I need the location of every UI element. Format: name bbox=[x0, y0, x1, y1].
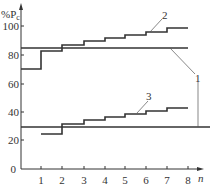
ytick-0: 0 bbox=[11, 163, 17, 175]
callout-2: 2 bbox=[162, 9, 168, 21]
ytick-20: 20 bbox=[8, 134, 20, 146]
ytick-80: 80 bbox=[8, 49, 20, 61]
xtick-7: 7 bbox=[164, 174, 170, 186]
xtick-4: 4 bbox=[102, 174, 108, 186]
callout-1-leader-a bbox=[170, 48, 195, 74]
x-axis-label: n bbox=[198, 172, 204, 184]
series-3-step bbox=[41, 108, 188, 134]
xtick-2: 2 bbox=[59, 174, 65, 186]
step-chart: 100 80 60 40 20 0 1 2 3 4 5 6 7 8 %Pc n … bbox=[0, 0, 217, 190]
y-axis-label: %Pc bbox=[1, 8, 20, 22]
ytick-40: 40 bbox=[8, 106, 20, 118]
callout-2-leader bbox=[150, 19, 162, 32]
callout-1: 1 bbox=[195, 72, 201, 84]
ytick-60: 60 bbox=[8, 78, 20, 90]
xtick-1: 1 bbox=[38, 174, 44, 186]
x-axis-arrow-icon bbox=[197, 167, 204, 171]
xtick-3: 3 bbox=[81, 174, 87, 186]
xtick-6: 6 bbox=[143, 174, 149, 186]
callout-3: 3 bbox=[146, 90, 152, 102]
xtick-8: 8 bbox=[185, 174, 191, 186]
xtick-5: 5 bbox=[122, 174, 128, 186]
y-axis-arrow-icon bbox=[19, 3, 23, 10]
y-tick-labels: 100 80 60 40 20 0 bbox=[3, 20, 20, 175]
x-tick-labels: 1 2 3 4 5 6 7 8 bbox=[38, 174, 191, 186]
